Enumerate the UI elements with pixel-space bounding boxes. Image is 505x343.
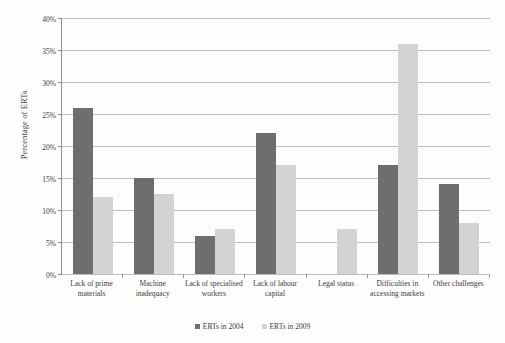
bar[interactable] [93, 197, 113, 274]
x-axis-category-label: Other challenges [428, 279, 489, 299]
bar[interactable] [215, 229, 235, 274]
y-axis-tick-label: 5% [46, 239, 56, 248]
y-axis-title: Percentage of ERTs [19, 65, 29, 185]
y-axis-tick-label: 25% [42, 111, 56, 120]
x-axis-category-label: Lack of specialised workers [183, 279, 244, 299]
bar-groups [62, 18, 490, 274]
bar-group [429, 18, 490, 274]
y-axis-tick-mark [58, 274, 62, 275]
bar[interactable] [154, 194, 174, 274]
x-axis-category-labels: Lack of prime materialsMachine inadequac… [61, 279, 489, 299]
gridline: 0% [62, 274, 490, 275]
y-axis-tick-label: 35% [42, 47, 56, 56]
bar[interactable] [337, 229, 357, 274]
legend-swatch-2004-icon [195, 324, 200, 329]
legend-label-2009: ERTs in 2009 [270, 322, 311, 331]
y-axis-tick-label: 0% [46, 271, 56, 280]
bar-chart: Percentage of ERTs 0%5%10%15%20%25%30%35… [0, 0, 505, 343]
x-axis-category-label: Lack of prime materials [61, 279, 122, 299]
legend-label-2004: ERTs in 2004 [203, 322, 244, 331]
legend-item-2009[interactable]: ERTs in 2009 [262, 322, 311, 331]
bar-group [62, 18, 123, 274]
y-axis-tick-label: 15% [42, 175, 56, 184]
bar-group [123, 18, 184, 274]
bar[interactable] [459, 223, 479, 274]
y-axis-tick-label: 10% [42, 207, 56, 216]
y-axis-tick-label: 40% [42, 15, 56, 24]
chart-legend: ERTs in 2004 ERTs in 2009 [0, 322, 505, 331]
bar[interactable] [439, 184, 459, 274]
bar[interactable] [195, 236, 215, 274]
x-axis-category-label: Difficulties in accessing markets [367, 279, 428, 299]
bar[interactable] [276, 165, 296, 274]
legend-swatch-2009-icon [262, 324, 267, 329]
bar[interactable] [256, 133, 276, 274]
bar[interactable] [134, 178, 154, 274]
x-axis-category-label: Machine inadequacy [122, 279, 183, 299]
bar-group [245, 18, 306, 274]
x-axis-category-label: Lack of labour capital [244, 279, 305, 299]
plot-area: 0%5%10%15%20%25%30%35%40% [61, 18, 490, 275]
bar-group [184, 18, 245, 274]
y-axis-tick-label: 30% [42, 79, 56, 88]
bar[interactable] [378, 165, 398, 274]
legend-item-2004[interactable]: ERTs in 2004 [195, 322, 244, 331]
y-axis-tick-label: 20% [42, 143, 56, 152]
bar[interactable] [73, 108, 93, 274]
bar-group [368, 18, 429, 274]
x-axis-category-label: Legal status [306, 279, 367, 299]
bar[interactable] [398, 44, 418, 274]
bar-group [307, 18, 368, 274]
